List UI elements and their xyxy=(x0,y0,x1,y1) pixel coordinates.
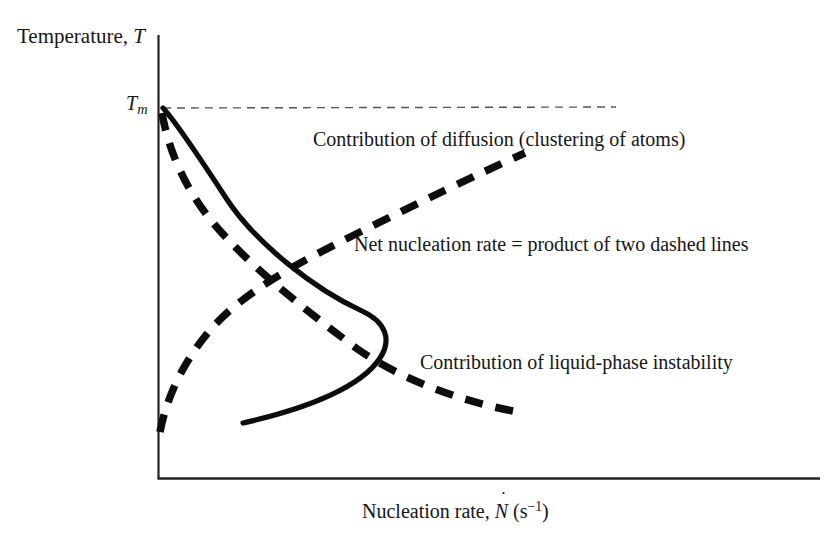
y-axis-title-prefix: Temperature, xyxy=(17,24,133,48)
tm-tick-label: Tm xyxy=(126,93,148,116)
tm-reference-line xyxy=(163,107,616,108)
x-axis-units-exponent: −1 xyxy=(528,499,542,514)
annotation-diffusion: Contribution of diffusion (clustering of… xyxy=(313,129,685,149)
tm-tick-label-subscript: m xyxy=(137,101,147,117)
annotation-net-nucleation-rate: Net nucleation rate = product of two das… xyxy=(354,234,749,254)
x-axis-units-open: (s xyxy=(508,500,527,522)
x-axis-title: Nucleation rate, ˙N (s−1) xyxy=(362,500,549,521)
net-nucleation-rate-curve xyxy=(163,108,386,423)
y-axis-title-symbol: T xyxy=(133,24,145,48)
x-axis-units-close: ) xyxy=(542,500,549,522)
overdot-accent: ˙ xyxy=(500,489,506,508)
nucleation-rate-figure: Temperature, T Tm Nucleation rate, ˙N (s… xyxy=(0,0,835,536)
x-axis-title-prefix: Nucleation rate, xyxy=(362,500,495,522)
tm-tick-label-symbol: T xyxy=(126,92,137,114)
annotation-liquid-phase-instability: Contribution of liquid-phase instability xyxy=(420,352,733,372)
y-axis-title: Temperature, T xyxy=(17,26,145,47)
x-axis-title-symbol-group: ˙N xyxy=(495,501,508,521)
plot-canvas xyxy=(0,0,835,536)
